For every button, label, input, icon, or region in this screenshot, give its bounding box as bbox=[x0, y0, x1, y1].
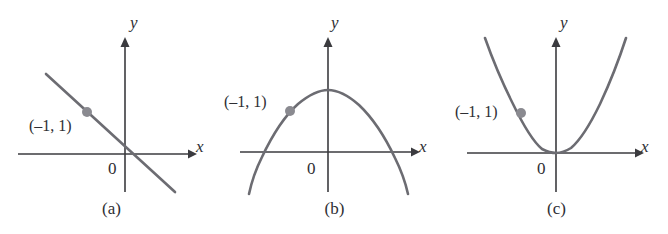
panel-c-graph bbox=[445, 0, 668, 200]
panel-c: y x 0 (–1, 1) (c) bbox=[445, 0, 668, 234]
y-axis-arrowhead bbox=[552, 37, 561, 47]
point-coordinate-label: (–1, 1) bbox=[224, 94, 267, 110]
y-axis-label: y bbox=[560, 14, 568, 31]
point-marker-b bbox=[285, 106, 295, 116]
panel-caption-a: (a) bbox=[0, 200, 223, 217]
origin-label: 0 bbox=[537, 160, 546, 177]
panel-caption-c: (c) bbox=[445, 200, 668, 217]
y-axis-arrowhead bbox=[324, 37, 333, 47]
x-axis-label: x bbox=[196, 138, 204, 155]
x-axis-label: x bbox=[641, 138, 649, 155]
y-axis-arrowhead bbox=[121, 37, 130, 47]
x-axis-label: x bbox=[419, 138, 427, 155]
origin-label: 0 bbox=[307, 160, 316, 177]
y-axis-label: y bbox=[331, 14, 339, 31]
panel-a: y x 0 (–1, 1) (a) bbox=[0, 0, 223, 234]
point-marker-c bbox=[516, 108, 526, 118]
point-marker-a bbox=[82, 107, 92, 117]
panel-b: y x 0 (–1, 1) (b) bbox=[223, 0, 446, 234]
point-coordinate-label: (–1, 1) bbox=[455, 104, 498, 120]
panel-caption-b: (b) bbox=[223, 200, 446, 217]
y-axis-label: y bbox=[130, 14, 138, 31]
origin-label: 0 bbox=[108, 160, 117, 177]
point-coordinate-label: (–1, 1) bbox=[29, 118, 72, 134]
figure-three-graphs: y x 0 (–1, 1) (a) y x 0 (–1, 1) (b) bbox=[0, 0, 668, 234]
